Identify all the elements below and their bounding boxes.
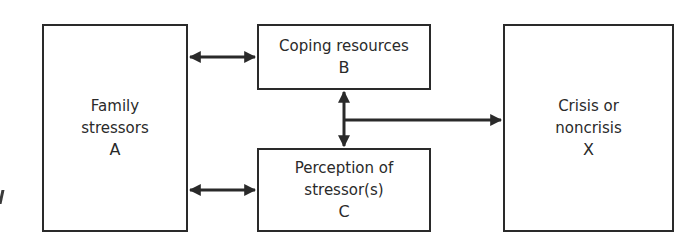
node-c-letter: C [338, 201, 349, 223]
node-coping-resources: Coping resources B [257, 24, 431, 90]
node-x-letter: X [583, 139, 594, 161]
node-c-line2: stressor(s) [304, 179, 383, 201]
node-c-line1: Perception of [295, 157, 394, 179]
node-x-line1: Crisis or [558, 95, 619, 117]
node-crisis-or-noncrisis: Crisis or noncrisis X [503, 24, 674, 232]
node-a-letter: A [110, 139, 121, 161]
node-b-letter: B [339, 57, 350, 79]
node-a-line2: stressors [81, 117, 149, 139]
node-a-line1: Family [91, 95, 139, 117]
node-perception-of-stressors: Perception of stressor(s) C [257, 148, 431, 232]
node-x-line2: noncrisis [555, 117, 622, 139]
node-family-stressors: Family stressors A [42, 24, 188, 232]
node-b-line1: Coping resources [279, 35, 409, 57]
